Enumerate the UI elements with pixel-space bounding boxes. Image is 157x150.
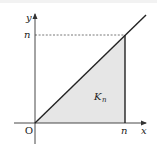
x-axis-label: x (141, 125, 147, 136)
region-label-k: K (93, 91, 102, 102)
y-tick-label-n: n (24, 29, 30, 40)
region-label-subscript-n: n (102, 96, 107, 104)
y-axis-label: y (25, 12, 32, 23)
coordinate-diagram: y n O n x K n (0, 0, 157, 150)
origin-label: O (25, 124, 33, 136)
x-tick-label-n: n (121, 125, 127, 136)
